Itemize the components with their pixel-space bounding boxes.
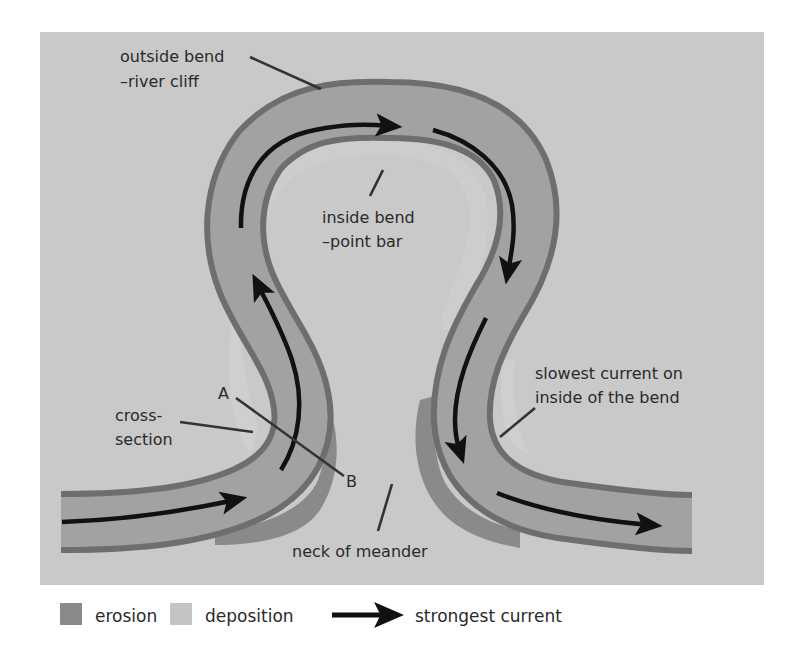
label-cross-section-2: section: [115, 430, 173, 449]
label-neck: neck of meander: [292, 542, 428, 561]
legend-current-label: strongest current: [415, 606, 562, 626]
label-slowest-2: inside of the bend: [535, 388, 680, 407]
legend-erosion-label: erosion: [95, 606, 157, 626]
label-inside-bend-2: –point bar: [322, 232, 403, 251]
legend-erosion-swatch: [60, 603, 82, 625]
label-point-b: B: [346, 472, 357, 491]
legend-deposition-swatch: [170, 603, 192, 625]
label-outside-bend-2: –river cliff: [120, 72, 200, 91]
legend: erosion deposition strongest current: [60, 603, 562, 626]
legend-deposition-label: deposition: [205, 606, 294, 626]
label-slowest-1: slowest current on: [535, 364, 683, 383]
label-cross-section-1: cross-: [115, 406, 162, 425]
label-inside-bend-1: inside bend: [322, 208, 415, 227]
label-outside-bend-1: outside bend: [120, 47, 224, 66]
label-point-a: A: [218, 384, 229, 403]
meander-diagram: outside bend –river cliff inside bend –p…: [0, 0, 785, 663]
